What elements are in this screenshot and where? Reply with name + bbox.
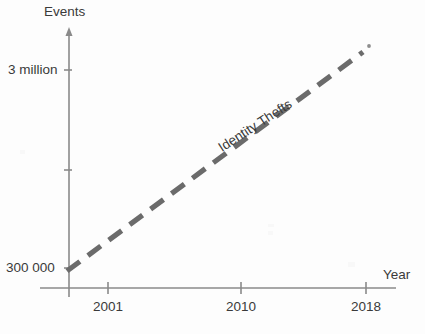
y-tick-label-300-000: 300 000 bbox=[6, 261, 55, 275]
x-axis-title: Year bbox=[383, 268, 410, 282]
x-tick-label-2018: 2018 bbox=[336, 300, 396, 314]
chart-vector-layer bbox=[0, 0, 425, 334]
x-tick-label-2001: 2001 bbox=[78, 300, 138, 314]
y-tick-label-3-million: 3 million bbox=[8, 63, 58, 77]
chart-canvas: Events Year 3 million 300 000 2001 2010 … bbox=[0, 0, 425, 334]
identity-thefts-trend-line bbox=[67, 52, 363, 271]
y-axis-title: Events bbox=[44, 5, 85, 19]
y-axis-arrowhead bbox=[66, 27, 73, 36]
x-tick-label-2010: 2010 bbox=[211, 300, 271, 314]
identity-thefts-endpoint-dot bbox=[367, 44, 371, 48]
